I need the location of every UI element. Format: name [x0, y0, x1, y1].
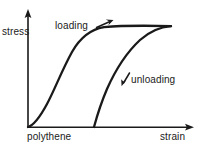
unloading-curve-label: unloading	[131, 74, 175, 85]
y-axis-label: stress	[2, 26, 29, 37]
arrow-down-left-icon	[121, 73, 129, 86]
stress-strain-figure: stress strain polythene loading unloadin…	[0, 0, 202, 149]
origin-material-label: polythene	[27, 131, 71, 142]
x-axis-label: strain	[160, 131, 185, 142]
loading-curve-label: loading	[55, 20, 88, 31]
